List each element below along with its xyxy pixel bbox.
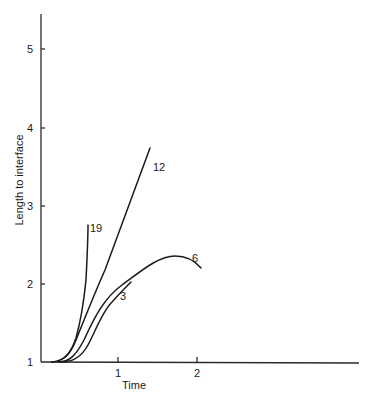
- curve-label-6: 6: [192, 252, 198, 264]
- y-axis-title: Length to interface: [13, 134, 25, 225]
- y-tick-label-3: 3: [27, 200, 33, 212]
- x-axis: [41, 362, 359, 363]
- y-tick-label-1: 1: [27, 356, 33, 368]
- y-tick-label-2: 2: [27, 278, 33, 290]
- curve-label-19: 19: [90, 222, 102, 234]
- curve-12: [52, 148, 150, 362]
- x-axis-title: Time: [122, 379, 146, 391]
- x-tick-label-1: 1: [115, 367, 121, 379]
- curve-label-12: 12: [153, 161, 165, 173]
- curve-6: [58, 256, 201, 362]
- curve-label-3: 3: [120, 290, 126, 302]
- y-tick-label-5: 5: [27, 43, 33, 55]
- chart: 5 4 3 2 1 1 2 Time Length to interface 1…: [0, 0, 373, 400]
- x-tick-label-2: 2: [194, 367, 200, 379]
- y-tick-label-4: 4: [27, 122, 33, 134]
